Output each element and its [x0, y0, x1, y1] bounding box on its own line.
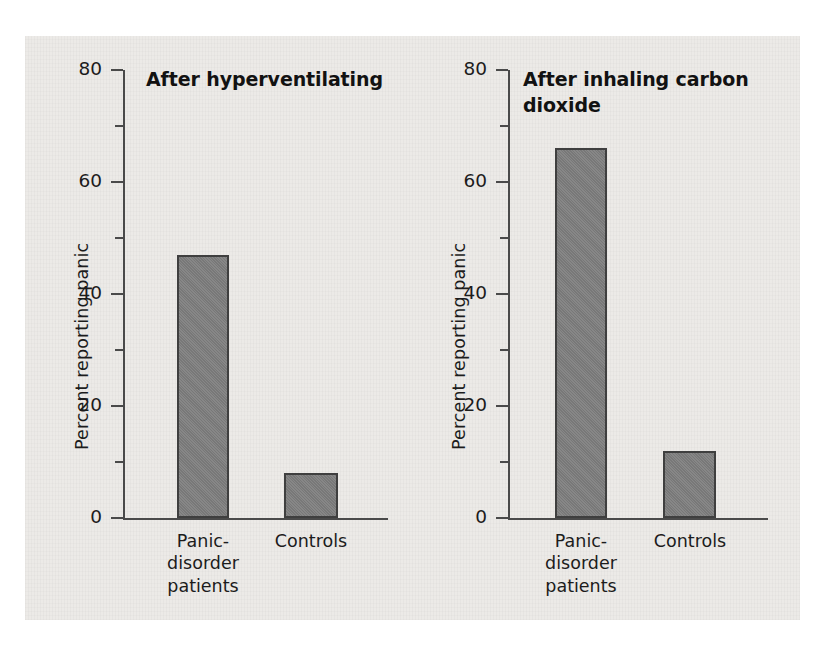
chart-title: After inhaling carbon dioxide	[523, 66, 773, 118]
y-tick-40	[496, 293, 508, 295]
y-tick-80	[496, 69, 508, 71]
y-tick-minor-10	[115, 461, 123, 463]
bar-controls	[663, 451, 716, 518]
chart-after-inhaling-carbon-dioxide: Percent reporting panic After inhaling c…	[385, 0, 827, 649]
y-tick-label-40: 40	[447, 282, 487, 303]
y-tick-label-20: 20	[447, 394, 487, 415]
y-tick-20	[111, 405, 123, 407]
y-tick-20	[496, 405, 508, 407]
x-category-label-controls: Controls	[261, 530, 361, 552]
y-tick-0	[111, 517, 123, 519]
chart-title-line-2: dioxide	[523, 92, 773, 118]
x-axis-line	[123, 518, 388, 520]
y-tick-minor-30	[115, 349, 123, 351]
y-axis-line	[508, 70, 510, 520]
chart-after-hyperventilating: Percent reporting panic After hyperventi…	[0, 0, 430, 649]
y-tick-label-0: 0	[447, 506, 487, 527]
bar-panic-disorder-patients	[555, 148, 607, 518]
y-tick-minor-10	[500, 461, 508, 463]
y-tick-60	[496, 181, 508, 183]
y-tick-label-0: 0	[62, 506, 102, 527]
y-tick-label-80: 80	[447, 58, 487, 79]
y-tick-minor-50	[115, 237, 123, 239]
bar-panic-disorder-patients	[177, 255, 229, 518]
y-tick-minor-50	[500, 237, 508, 239]
y-tick-label-60: 60	[62, 170, 102, 191]
y-tick-40	[111, 293, 123, 295]
y-tick-60	[111, 181, 123, 183]
y-tick-label-40: 40	[62, 282, 102, 303]
y-tick-label-80: 80	[62, 58, 102, 79]
figure-canvas: Percent reporting panic After hyperventi…	[0, 0, 827, 649]
chart-title: After hyperventilating	[146, 66, 406, 92]
y-axis-label: Percent reporting panic	[449, 243, 469, 450]
y-axis-label: Percent reporting panic	[72, 243, 92, 450]
y-tick-minor-30	[500, 349, 508, 351]
bar-controls	[284, 473, 338, 518]
y-tick-label-60: 60	[447, 170, 487, 191]
y-tick-minor-70	[500, 125, 508, 127]
x-category-label-panic-disorder-patients: Panic- disorder patients	[153, 530, 253, 597]
y-tick-minor-70	[115, 125, 123, 127]
chart-title-line-1: After inhaling carbon	[523, 66, 773, 92]
y-tick-label-20: 20	[62, 394, 102, 415]
y-axis-line	[123, 70, 125, 520]
y-tick-80	[111, 69, 123, 71]
x-category-label-controls: Controls	[640, 530, 740, 552]
y-tick-0	[496, 517, 508, 519]
x-category-label-panic-disorder-patients: Panic- disorder patients	[531, 530, 631, 597]
x-axis-line	[508, 518, 768, 520]
